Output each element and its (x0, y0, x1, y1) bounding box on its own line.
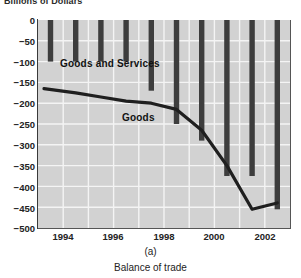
x-tick-1994: 1994 (52, 231, 73, 242)
y-tick-350: −350 (1, 162, 35, 172)
y-tick-0: 0 (1, 16, 35, 26)
plot-area (38, 20, 291, 229)
x-tick-2002: 2002 (254, 231, 275, 242)
bar-1996 (123, 20, 128, 62)
x-tick-1998: 1998 (153, 231, 174, 242)
y-tick-150: −150 (1, 78, 35, 88)
y-tick-100: −100 (1, 58, 35, 68)
bar-2000 (224, 20, 229, 176)
series-label-goods-and-services: Goods and Services (60, 58, 160, 69)
chart-canvas (38, 20, 290, 228)
y-tick-300: −300 (1, 141, 35, 151)
bar-1994 (73, 20, 78, 62)
y-tick-400: −400 (1, 183, 35, 193)
x-tick-2000: 2000 (203, 231, 224, 242)
x-axis-tick-labels: 1994 1996 1998 2000 2002 (0, 231, 301, 245)
bar-2002 (275, 20, 280, 209)
x-tick-1996: 1996 (102, 231, 123, 242)
bar-1993 (48, 20, 53, 62)
series-label-goods: Goods (122, 112, 155, 123)
figure-caption: Balance of trade (0, 262, 301, 273)
goods-line (44, 89, 277, 210)
y-tick-50: −50 (1, 37, 35, 47)
bar-1995 (98, 20, 103, 62)
bar-2001 (249, 20, 254, 176)
y-tick-450: −450 (1, 204, 35, 214)
balance-of-trade-figure: Billions of Dollars 0 −50 −100 −150 −200… (0, 0, 301, 278)
bar-1999 (199, 20, 204, 141)
panel-caption: (a) (0, 246, 301, 257)
bar-1997 (149, 20, 154, 91)
y-tick-250: −250 (1, 120, 35, 130)
y-tick-200: −200 (1, 99, 35, 109)
